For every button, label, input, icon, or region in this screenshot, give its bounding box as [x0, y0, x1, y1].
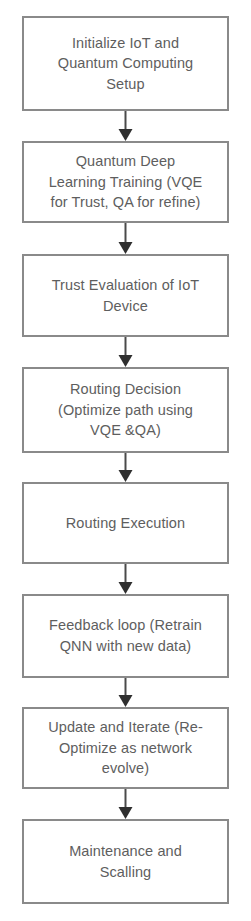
flowchart-arrow-6 [0, 678, 251, 707]
node-label: Trust Evaluation of IoT Device [24, 275, 227, 316]
flowchart-node-quantum-deep-learning-training: Quantum Deep Learning Training (VQE for … [22, 141, 229, 223]
flowchart-arrow-3 [0, 337, 251, 367]
flowchart-node-initialize-setup: Initialize IoT and Quantum Computing Set… [22, 16, 229, 111]
flowchart-node-feedback-loop: Feedback loop (Retrain QNN with new data… [22, 594, 229, 678]
node-label: Feedback loop (Retrain QNN with new data… [24, 615, 227, 656]
flowchart-diagram: Initialize IoT and Quantum Computing Set… [0, 0, 251, 921]
flowchart-arrow-7 [0, 789, 251, 819]
flowchart-node-maintenance-and-scaling: Maintenance and Scalling [22, 819, 229, 904]
node-label: Update and Iterate (Re- Optimize as netw… [24, 717, 227, 779]
flowchart-node-routing-decision: Routing Decision (Optimize path using VQ… [22, 367, 229, 453]
node-label: Routing Execution [24, 513, 227, 534]
flowchart-arrow-4 [0, 453, 251, 482]
flowchart-arrow-1 [0, 111, 251, 141]
node-label: Initialize IoT and Quantum Computing Set… [24, 33, 227, 95]
flowchart-arrow-2 [0, 223, 251, 254]
flowchart-node-update-and-iterate: Update and Iterate (Re- Optimize as netw… [22, 707, 229, 789]
flowchart-node-routing-execution: Routing Execution [22, 482, 229, 564]
node-label: Quantum Deep Learning Training (VQE for … [24, 151, 227, 213]
flowchart-node-trust-evaluation: Trust Evaluation of IoT Device [22, 254, 229, 337]
flowchart-arrow-5 [0, 564, 251, 594]
node-label: Maintenance and Scalling [24, 841, 227, 882]
node-label: Routing Decision (Optimize path using VQ… [24, 379, 227, 441]
